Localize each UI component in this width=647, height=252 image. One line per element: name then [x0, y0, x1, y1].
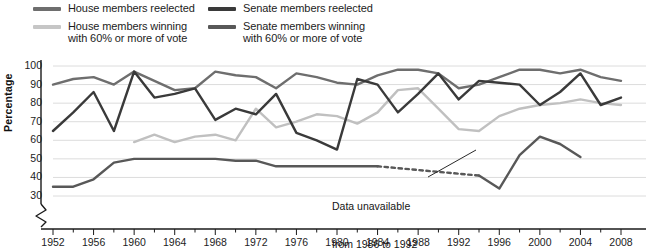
legend-item: House members winning with 60% or more o…: [33, 20, 195, 45]
legend-swatch-house-60: [33, 25, 61, 29]
x-tick-label: 2008: [609, 236, 632, 248]
y-tick-label: 30: [8, 189, 42, 201]
x-tick-label: 1964: [163, 236, 186, 248]
y-tick-label: 70: [8, 115, 42, 127]
legend-label-senate-reelected: Senate members reelected: [243, 2, 373, 15]
x-tick-label: 2004: [569, 236, 592, 248]
x-tick-label: 1972: [244, 236, 267, 248]
x-tick-label: 2000: [528, 236, 551, 248]
y-tick-label: 50: [8, 152, 42, 164]
legend-column-house: House members reelected House members wi…: [33, 2, 195, 50]
y-tick-label: 90: [8, 78, 42, 90]
chart-legend: House members reelected House members wi…: [0, 0, 647, 44]
x-tick-label: 1992: [447, 236, 470, 248]
x-tick-label: 1960: [122, 236, 145, 248]
legend-label-house-60: House members winning with 60% or more o…: [68, 20, 187, 45]
legend-item: Senate members winning with 60% or more …: [208, 20, 373, 45]
legend-swatch-senate-reelected: [208, 7, 236, 11]
x-tick-label: 1956: [82, 236, 105, 248]
y-tick-label: 100: [8, 59, 42, 71]
y-tick-label: 80: [8, 96, 42, 108]
legend-column-senate: Senate members reelected Senate members …: [208, 2, 373, 50]
y-tick-label: 60: [8, 133, 42, 145]
series-lines: [53, 70, 621, 189]
y-tick-label: 40: [8, 170, 42, 182]
x-tick-label: 1976: [285, 236, 308, 248]
x-axis-ticks: 1952195619601964196819721976198019841988…: [0, 212, 647, 242]
legend-item: Senate members reelected: [208, 2, 373, 15]
plot-area: Percentage 10090807060504030 19521956196…: [0, 44, 647, 244]
annotation-leader-line: [428, 150, 476, 177]
legend-label-house-reelected: House members reelected: [68, 2, 195, 15]
x-tick-label: 1968: [204, 236, 227, 248]
x-tick-label: 1996: [488, 236, 511, 248]
annotation-data-unavailable: Data unavailable from 1986 to 1992: [332, 175, 417, 252]
legend-item: House members reelected: [33, 2, 195, 15]
legend-swatch-house-reelected: [33, 7, 61, 11]
legend-swatch-senate-60: [208, 25, 236, 29]
legend-label-senate-60: Senate members winning with 60% or more …: [243, 20, 365, 45]
annotation-line-1: Data unavailable: [332, 200, 417, 213]
annotation-line-2: from 1986 to 1992: [332, 238, 417, 251]
x-tick-label: 1952: [41, 236, 64, 248]
